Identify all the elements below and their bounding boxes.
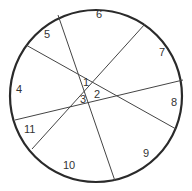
region-label-10: 10 bbox=[63, 159, 75, 171]
region-label-5: 5 bbox=[44, 28, 50, 40]
region-label-4: 4 bbox=[16, 83, 22, 95]
region-label-1: 1 bbox=[83, 76, 89, 88]
region-label-3: 3 bbox=[80, 93, 86, 105]
region-label-9: 9 bbox=[143, 147, 149, 159]
circle-regions-diagram: 1234567891011 bbox=[0, 0, 192, 191]
region-label-8: 8 bbox=[171, 96, 177, 108]
region-label-7: 7 bbox=[159, 46, 165, 58]
region-label-2: 2 bbox=[94, 88, 100, 100]
region-label-11: 11 bbox=[24, 123, 35, 135]
region-label-6: 6 bbox=[96, 8, 102, 20]
diagram-canvas: 1234567891011 bbox=[0, 0, 192, 191]
